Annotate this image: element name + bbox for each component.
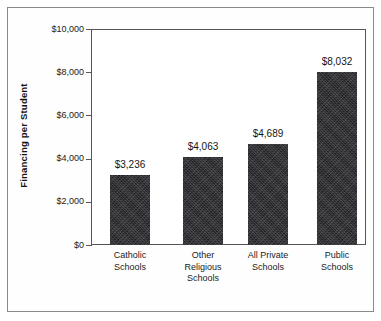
chart-figure: Financing per Student $0$2,000$4,000$6,0…: [0, 0, 381, 321]
bar: [317, 72, 357, 245]
bar-value-label: $4,689: [228, 129, 308, 139]
x-axis-category-label-line: All Private: [228, 250, 308, 262]
x-axis-category-label-line: Catholic: [90, 250, 170, 262]
y-axis-tick: [86, 245, 92, 246]
y-axis-tick-labels: $0$2,000$4,000$6,000$8,000$10,000: [8, 0, 84, 321]
x-axis-category-label-line: Schools: [90, 262, 170, 274]
bar: [183, 157, 223, 245]
x-axis-category-label-line: Schools: [228, 262, 308, 274]
x-axis-category-label-line: Public: [297, 250, 377, 262]
y-axis-tick-label: $0: [14, 241, 84, 250]
y-axis-tick-label: $2,000: [14, 197, 84, 206]
y-axis-tick-label: $6,000: [14, 111, 84, 120]
y-axis-tick-label: $4,000: [14, 154, 84, 163]
x-axis-category-label: CatholicSchools: [90, 250, 170, 273]
bar: [248, 144, 288, 245]
bar-value-label: $3,236: [90, 160, 170, 170]
bar-value-label: $4,063: [163, 142, 243, 152]
bar-value-label: $8,032: [297, 57, 377, 67]
x-axis-category-label-line: Schools: [163, 273, 243, 285]
x-axis-category-label: All PrivateSchools: [228, 250, 308, 273]
x-axis-category-label: PublicSchools: [297, 250, 377, 273]
bar: [110, 175, 150, 245]
x-axis-category-label-line: Schools: [297, 262, 377, 274]
y-axis-tick-label: $8,000: [14, 68, 84, 77]
y-axis-tick-label: $10,000: [14, 25, 84, 34]
